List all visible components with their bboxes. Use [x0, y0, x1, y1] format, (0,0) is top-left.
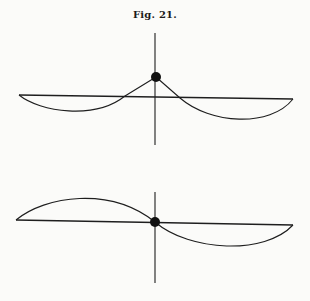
bottom-left-curve [16, 198, 155, 222]
top-left-curve [19, 77, 156, 111]
bottom-right-curve [155, 222, 293, 246]
bottom-center-dot [150, 217, 160, 227]
top-baseline [19, 95, 293, 99]
bottom-panel [16, 192, 293, 283]
top-panel [19, 33, 293, 145]
figure-drawing [0, 0, 310, 301]
top-center-dot [151, 72, 161, 82]
